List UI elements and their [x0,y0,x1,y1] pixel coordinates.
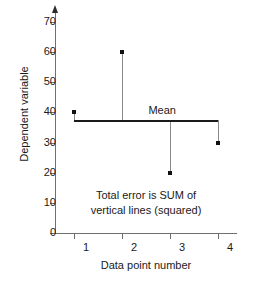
y-axis-title: Dependent variable [18,34,30,194]
mean-line [74,120,218,122]
mean-line-label: Mean [148,104,176,116]
y-axis-tick-label: 0 [26,227,56,238]
residual-line [218,120,219,143]
x-axis-tick [218,233,219,239]
x-axis-tick-label: 1 [74,242,98,253]
data-point [168,171,172,175]
x-axis-tick [74,233,75,239]
y-axis-tick-label: 20 [26,167,56,178]
y-axis-tick-label: 10 [26,197,56,208]
x-axis-tick-label: 3 [170,242,194,253]
y-axis-tick-label: 50 [26,76,56,87]
y-axis-arrow-icon [52,5,58,13]
chart-annotation: Total error is SUM ofvertical lines (squ… [55,188,237,218]
x-axis-line [55,233,237,234]
x-axis-tick-label: 4 [218,242,242,253]
y-axis-tick-label: 70 [26,16,56,27]
plot-area: 010203040506070 1234 Mean Dependent vari… [0,0,255,282]
y-axis-tick-label: 60 [26,46,56,57]
y-axis-tick-label: 40 [26,106,56,117]
residual-line [122,52,123,120]
x-axis-tick [170,233,171,239]
data-point [120,50,124,54]
x-axis-title: Data point number [55,259,237,271]
y-axis-tick-label: 30 [26,137,56,148]
chart-figure: 010203040506070 1234 Mean Dependent vari… [0,0,255,282]
annotation-line: vertical lines (squared) [55,203,237,218]
data-point [72,110,76,114]
x-axis-tick [122,233,123,239]
residual-line [170,120,171,173]
x-axis-tick-label: 2 [122,242,146,253]
data-point [216,141,220,145]
annotation-line: Total error is SUM of [55,188,237,203]
